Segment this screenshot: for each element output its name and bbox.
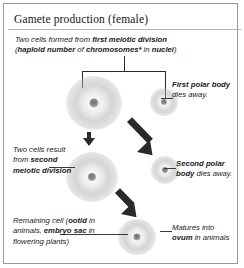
nucleus-icon [90,99,99,108]
ootid-cell [66,152,118,202]
first-polar-body-bold: First polar body [172,80,230,89]
nucleus-icon [134,234,141,241]
first-polar-body-label: First polar body dies away. [172,80,244,101]
gamete-production-figure: Gamete production (female) Two cells for… [0,0,244,268]
intro-line2-close: ) [174,45,177,54]
remaining-ootid-bold: ootid [68,216,87,225]
intro-line1-plain: Two cells formed from [15,35,92,44]
second-polar-body-leader-line [164,168,176,169]
remaining-embryosac-bold: embryo sac [44,226,87,235]
figure-frame: Gamete production (female) Two cells for… [3,3,238,264]
bracket-stem [124,56,125,72]
remaining-cell-label: Remaining cell (ootid in animals, embryo… [13,216,97,247]
second-polar-body-rest: dies away. [194,169,232,178]
matures-leader-line [160,231,172,232]
nucleus-icon [161,99,167,105]
secondary-oocyte-cell [66,76,122,130]
second-division-label: Two cells result from second meiotic div… [13,145,73,176]
intro-caption: Two cells formed from first meiotic divi… [15,35,233,56]
bracket-bar [82,71,166,72]
title-divider [8,29,241,30]
second-polar-body-label: Second polar body dies away. [176,159,244,180]
intro-line1-bold: first meiotic division [92,35,167,44]
ovum-cell [118,219,156,255]
matures-label: Matures into ovum in animals [172,223,244,244]
intro-line2-mid: of [75,45,86,54]
nucleus-icon [88,173,96,181]
arrow-head [83,138,95,146]
remaining-plain1: Remaining cell ( [13,216,68,225]
figure-title: Gamete production (female) [14,13,148,25]
matures-plain2: in animals [193,233,230,242]
intro-haploid-bold: haploid number [18,45,76,54]
matures-plain1: Matures into [172,223,214,232]
first-polar-body-rest: dies away. [172,90,208,99]
intro-line2-mid2: in [141,45,151,54]
second-polar-body-cell [151,156,179,184]
matures-ovum-bold: ovum [172,233,193,242]
intro-chromosomes-bold: chromosomes* [86,45,142,54]
intro-nuclei-bold: nuclei [152,45,174,54]
